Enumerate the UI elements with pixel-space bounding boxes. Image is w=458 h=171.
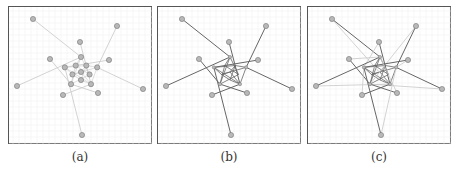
graph-a bbox=[9, 7, 153, 145]
panel-b bbox=[157, 6, 301, 144]
graph-c bbox=[308, 7, 452, 145]
caption-a: (a) bbox=[8, 150, 152, 164]
caption-c: (c) bbox=[307, 150, 451, 164]
graph-b bbox=[158, 7, 302, 145]
panel-c bbox=[307, 6, 451, 144]
panel-a bbox=[8, 6, 152, 144]
caption-b: (b) bbox=[157, 150, 301, 164]
